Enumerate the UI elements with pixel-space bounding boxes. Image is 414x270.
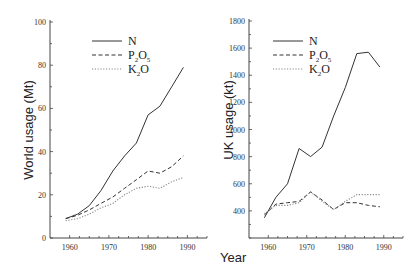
x-tick-label: 1980	[140, 243, 156, 252]
x-tick-label: 1970	[299, 243, 315, 252]
world-usage-axis-title: World usage (Mt)	[21, 80, 36, 179]
world-usage-chart: 0204060801001960197019801990NP2O5K2O	[34, 18, 207, 252]
y-tick-label: 100	[34, 18, 46, 27]
series-line-k2o	[264, 192, 380, 214]
legend: NP2O5K2O	[92, 34, 151, 78]
x-tick-label: 1990	[376, 243, 392, 252]
x-tick-label: 1990	[179, 243, 195, 252]
y-tick-label: 1400	[229, 71, 245, 80]
legend-label-n: N	[309, 34, 318, 48]
series-line-p2o5	[66, 156, 184, 219]
series-line-n	[66, 67, 184, 218]
x-tick-label: 1960	[260, 243, 276, 252]
uk-usage-chart: 4006008001000120014001600180019601970198…	[229, 17, 403, 252]
y-tick-label: 40	[38, 148, 46, 157]
y-tick-label: 20	[38, 191, 46, 200]
series-line-n	[264, 52, 380, 218]
series-line-p2o5	[264, 192, 380, 215]
legend-label-n: N	[128, 34, 137, 48]
y-tick-label: 1600	[229, 44, 245, 53]
x-tick-label: 1970	[101, 243, 117, 252]
y-tick-label: 1800	[229, 17, 245, 26]
legend-label-k2o: K2O	[309, 62, 330, 78]
legend-label-k2o: K2O	[128, 62, 149, 78]
x-tick-label: 1980	[337, 243, 353, 252]
uk-usage-axis-title: UK usage (kt)	[221, 80, 236, 159]
fertilizer-usage-charts: 0204060801001960197019801990NP2O5K2O 400…	[0, 0, 414, 270]
year-axis-title: Year	[220, 250, 247, 265]
y-tick-label: 600	[233, 180, 245, 189]
y-tick-label: 0	[42, 234, 46, 243]
legend: NP2O5K2O	[273, 34, 332, 78]
y-tick-label: 80	[38, 61, 46, 70]
x-tick-label: 1960	[62, 243, 78, 252]
y-tick-label: 60	[38, 104, 46, 113]
series-line-k2o	[66, 178, 184, 221]
y-tick-label: 400	[233, 207, 245, 216]
